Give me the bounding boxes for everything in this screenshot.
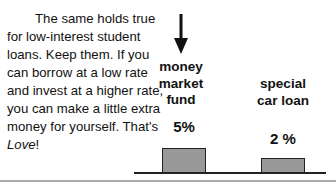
paragraph-text: The same holds true for low-interest stu… — [7, 11, 163, 134]
label-line: car loan — [250, 93, 316, 110]
label-line: special — [250, 76, 316, 93]
bar-money-market-fund — [162, 148, 206, 173]
chart-baseline — [134, 172, 326, 174]
bar-special-car-loan — [261, 158, 305, 173]
bar-label-money-market-fund: money market fund — [150, 59, 212, 109]
body-paragraph: The same holds true for low-interest stu… — [7, 10, 167, 154]
bar-label-special-car-loan: special car loan — [250, 76, 316, 109]
bottom-divider — [0, 180, 336, 182]
bar-value-5pct: 5% — [160, 118, 208, 135]
label-line: money — [150, 59, 212, 76]
paragraph-emphasis: Love — [7, 137, 36, 152]
label-line: fund — [150, 92, 212, 109]
paragraph-text-end: ! — [36, 137, 40, 152]
bar-value-2pct: 2 % — [258, 130, 308, 147]
down-arrow-icon — [174, 14, 188, 54]
label-line: market — [150, 76, 212, 93]
